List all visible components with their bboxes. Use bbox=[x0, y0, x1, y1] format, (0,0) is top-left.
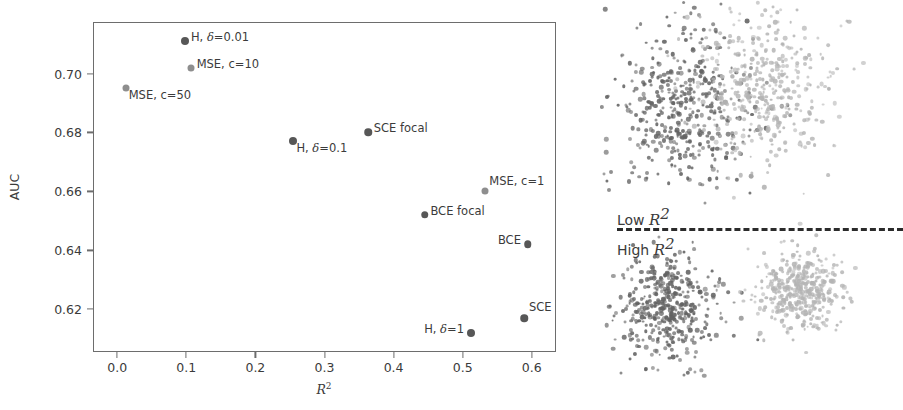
x-axis-tick-mark bbox=[393, 352, 394, 358]
scatter-panel-auc-vs-r2: 0.700.680.660.640.62 AUC 0.00.10.20.30.4… bbox=[0, 0, 600, 410]
x-axis-tick-mark bbox=[531, 352, 532, 358]
high-r2-caption-prefix: High bbox=[617, 242, 654, 258]
y-axis-tick-mark bbox=[87, 250, 93, 251]
cluster-dot bbox=[777, 278, 781, 282]
cluster-dot bbox=[773, 279, 776, 282]
label-prefix: H, bbox=[424, 322, 440, 336]
data-point-label: MSE, c=10 bbox=[197, 59, 259, 71]
cluster-dot bbox=[827, 290, 832, 295]
x-axis-label-exponent: 2 bbox=[326, 381, 332, 391]
cluster-dot bbox=[756, 312, 760, 316]
cluster-dot bbox=[817, 316, 821, 320]
x-axis-label-text: R bbox=[316, 382, 325, 397]
cluster-dot bbox=[793, 288, 798, 293]
cluster-dot bbox=[797, 265, 801, 269]
label-prefix: H, bbox=[191, 30, 207, 44]
cluster-dot bbox=[780, 303, 783, 306]
data-point-marker[interactable] bbox=[181, 37, 189, 45]
cluster-illustration-panel: Low R2 High R2 bbox=[600, 0, 903, 410]
cluster-dot bbox=[771, 301, 774, 304]
cluster-dot bbox=[783, 313, 788, 318]
cluster-dot bbox=[782, 324, 786, 328]
label-suffix: =1 bbox=[447, 322, 464, 336]
cluster-dot bbox=[801, 322, 806, 327]
cluster-dot bbox=[789, 291, 792, 294]
cluster-dot bbox=[782, 282, 786, 286]
cluster-dot bbox=[790, 274, 794, 278]
cluster-dot bbox=[787, 268, 791, 272]
cluster-dot bbox=[754, 285, 758, 289]
cluster-dot bbox=[795, 278, 799, 282]
cluster-dot bbox=[783, 240, 786, 243]
data-point-marker[interactable] bbox=[481, 188, 488, 195]
cluster-dot bbox=[822, 297, 826, 301]
cluster-dot bbox=[762, 251, 766, 255]
cluster-dot bbox=[798, 258, 801, 261]
cluster-dot bbox=[774, 317, 777, 320]
cluster-dot bbox=[816, 254, 819, 257]
point-cloud-high-r2-class-b bbox=[600, 0, 903, 410]
cluster-dot bbox=[814, 272, 817, 275]
data-point-marker[interactable] bbox=[467, 329, 475, 337]
data-point-marker[interactable] bbox=[421, 211, 429, 219]
data-point-layer: H, δ=0.01MSE, c=10MSE, c=50SCE focalH, δ… bbox=[93, 22, 556, 352]
cluster-dot bbox=[753, 300, 756, 303]
cluster-dot bbox=[754, 295, 757, 298]
cluster-dot bbox=[770, 297, 774, 301]
cluster-dot bbox=[791, 255, 795, 259]
cluster-dot bbox=[821, 315, 824, 318]
data-point-label: BCE focal bbox=[430, 206, 484, 218]
cluster-dot bbox=[743, 289, 746, 292]
cluster-dot bbox=[781, 259, 784, 262]
y-axis-tick-mark bbox=[87, 191, 93, 192]
cluster-dot bbox=[788, 301, 792, 305]
cluster-dot bbox=[789, 296, 792, 299]
data-point-label: MSE, c=50 bbox=[129, 90, 191, 102]
data-point-marker[interactable] bbox=[364, 129, 372, 137]
x-axis-tick-mark bbox=[186, 352, 187, 358]
data-point-label: BCE bbox=[498, 235, 521, 247]
cluster-dot bbox=[759, 299, 764, 304]
low-r2-caption-symbol-r: R bbox=[649, 211, 660, 229]
cluster-dot bbox=[821, 306, 824, 309]
cluster-dot bbox=[806, 275, 809, 278]
cluster-dot bbox=[836, 324, 839, 327]
cluster-dot bbox=[760, 286, 763, 289]
cluster-dot bbox=[853, 266, 857, 270]
cluster-dot bbox=[840, 270, 844, 274]
cluster-dot bbox=[760, 280, 763, 283]
data-point-marker[interactable] bbox=[188, 64, 195, 71]
data-point-label: H, δ=0.01 bbox=[191, 32, 249, 44]
cluster-dot bbox=[803, 328, 806, 331]
cluster-dot bbox=[839, 320, 842, 323]
cluster-dot bbox=[716, 284, 720, 288]
cluster-dot bbox=[773, 296, 776, 299]
cluster-dot bbox=[836, 264, 839, 267]
y-axis-tick-mark bbox=[87, 132, 93, 133]
cluster-dot bbox=[849, 299, 853, 303]
cluster-dot bbox=[799, 254, 802, 257]
data-point-label: H, δ=1 bbox=[424, 324, 464, 336]
data-point-marker[interactable] bbox=[524, 241, 532, 249]
cluster-dot bbox=[812, 306, 817, 311]
cluster-dot bbox=[793, 300, 798, 305]
cluster-dot bbox=[846, 291, 849, 294]
cluster-dot bbox=[792, 306, 796, 310]
cluster-dot bbox=[756, 265, 759, 268]
cluster-dot bbox=[799, 308, 802, 311]
cluster-dot bbox=[816, 276, 819, 279]
low-r2-caption-prefix: Low bbox=[617, 212, 649, 228]
x-axis-tick-label: 0.3 bbox=[315, 360, 335, 375]
cluster-dot bbox=[785, 262, 789, 266]
cluster-dot bbox=[798, 221, 803, 226]
cluster-dot bbox=[820, 264, 823, 267]
cluster-dot bbox=[832, 253, 835, 256]
cluster-dot bbox=[765, 265, 769, 269]
x-axis-tick-mark bbox=[462, 352, 463, 358]
x-axis-label: R2 bbox=[316, 381, 331, 397]
cluster-dot bbox=[747, 247, 750, 250]
cluster-dot bbox=[809, 287, 814, 292]
cluster-dot bbox=[789, 326, 793, 330]
cluster-dot bbox=[790, 239, 794, 243]
data-point-marker[interactable] bbox=[520, 314, 528, 322]
